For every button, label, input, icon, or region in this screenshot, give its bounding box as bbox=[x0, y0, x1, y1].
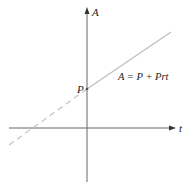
a-axis-arrow-icon bbox=[85, 7, 90, 14]
intercept-label: P bbox=[76, 83, 84, 95]
graph: A t P A = P + Prt bbox=[0, 0, 190, 188]
t-axis-label: t bbox=[179, 122, 183, 134]
equation-label: A = P + Prt bbox=[117, 71, 170, 82]
t-axis-arrow-icon bbox=[169, 126, 176, 131]
intercept-point bbox=[86, 88, 89, 91]
a-axis-label: A bbox=[91, 6, 99, 18]
dashed-line-segment bbox=[9, 89, 87, 145]
